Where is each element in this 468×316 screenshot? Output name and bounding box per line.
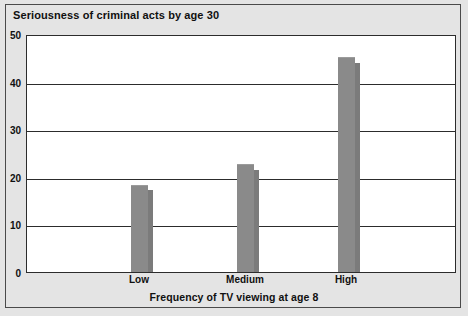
bar-low-shadow — [148, 190, 153, 272]
y-tick-label-20: 20 — [10, 172, 21, 183]
bar-medium-shadow — [254, 170, 259, 272]
x-tick-label-low: Low — [129, 274, 149, 285]
bar-high-shadow — [355, 63, 360, 272]
y-tick-label-30: 30 — [10, 125, 21, 136]
x-tick-label-medium: Medium — [226, 274, 264, 285]
bar-low-body — [131, 185, 148, 272]
x-axis-tick-labels: Low Medium High — [26, 274, 456, 288]
y-tick-label-40: 40 — [10, 77, 21, 88]
y-axis-tick-labels: 50 40 30 20 10 0 — [0, 35, 24, 273]
plot-area — [26, 35, 456, 273]
bar-medium-body — [237, 164, 254, 272]
x-tick-label-high: High — [335, 274, 357, 285]
bar-high-body — [338, 57, 355, 272]
y-tick-label-0: 0 — [15, 268, 21, 279]
chart-title: Seriousness of criminal acts by age 30 — [13, 9, 219, 21]
y-tick-label-50: 50 — [10, 30, 21, 41]
bar-series — [27, 36, 455, 272]
y-tick-label-10: 10 — [10, 220, 21, 231]
chart-figure: Seriousness of criminal acts by age 30 5… — [0, 0, 468, 316]
x-axis-title: Frequency of TV viewing at age 8 — [0, 291, 468, 303]
